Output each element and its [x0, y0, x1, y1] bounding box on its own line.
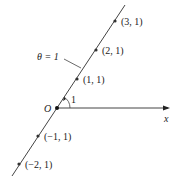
- label-2-1: (2, 1): [102, 45, 124, 57]
- polar-line-diagram: (3, 1) (2, 1) (1, 1) (−1, 1) (−2, 1) θ =…: [0, 0, 184, 186]
- x-axis-label: x: [163, 113, 169, 124]
- point-neg2-1: [17, 162, 20, 165]
- theta-label: θ = 1: [37, 51, 59, 62]
- point-3-1: [113, 19, 116, 22]
- point-1-1: [75, 77, 78, 80]
- label-1-1: (1, 1): [83, 74, 105, 86]
- point-2-1: [94, 48, 97, 51]
- theta-label-pointer: [64, 59, 81, 68]
- point-neg1-1: [36, 134, 39, 137]
- origin-point: [55, 106, 59, 110]
- label-neg1-1: (−1, 1): [44, 131, 71, 143]
- x-axis-arrow-icon: [163, 106, 170, 111]
- label-3-1: (3, 1): [121, 16, 143, 28]
- origin-label: O: [44, 103, 51, 114]
- label-neg2-1: (−2, 1): [25, 159, 52, 171]
- angle-label: 1: [71, 94, 76, 105]
- theta-line: [12, 5, 125, 176]
